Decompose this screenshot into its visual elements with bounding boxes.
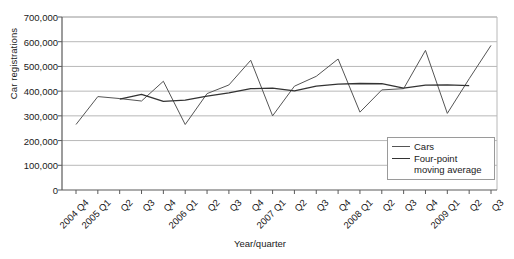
legend-line-swatch-moving-average (391, 153, 411, 165)
legend-line-swatch-cars (391, 141, 411, 153)
legend-label-moving-average: Four-point moving average (414, 153, 482, 176)
legend-item-cars: Cars (391, 141, 490, 153)
legend-label-cars: Cars (414, 141, 434, 153)
chart-container: Car registrations Year/quarter 0100,0002… (0, 0, 514, 259)
chart-legend: Cars Four-point moving average (387, 137, 495, 180)
legend-item-moving-average: Four-point moving average (391, 153, 490, 176)
x-axis-tick-labels: 2004 Q42005 Q1Q2Q3Q42006 Q1Q2Q3Q42007 Q1… (0, 0, 514, 259)
